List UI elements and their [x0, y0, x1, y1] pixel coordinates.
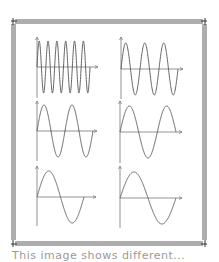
axes-row2-left — [37, 101, 97, 161]
axes-row3-left — [37, 166, 96, 226]
axis-arrows-row3-left — [36, 166, 97, 199]
axis-arrows-row3-right — [119, 166, 183, 200]
caption-text: This image shows different... — [12, 249, 185, 262]
